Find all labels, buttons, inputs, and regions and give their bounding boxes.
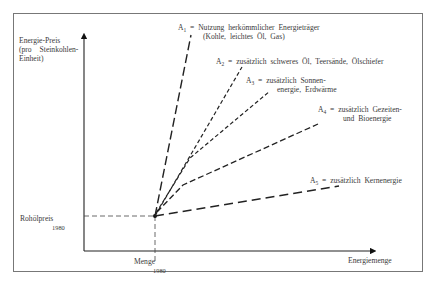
annotation-line: zusätzlich Kernenergie bbox=[330, 176, 402, 185]
curve-sub: 5 bbox=[315, 180, 318, 186]
curve-a1 bbox=[155, 35, 191, 216]
reference-quantity-year: 1980 bbox=[153, 266, 166, 275]
reference-price-label: Rohölpreis bbox=[20, 214, 53, 223]
annotation-line: zusätzlich Gezeiten- bbox=[338, 105, 402, 114]
annotation-line: zusätzlich schweres Öl, Teersände, Ölsch… bbox=[236, 57, 383, 66]
x-axis-label: Energiemenge bbox=[348, 256, 392, 265]
curve-a5 bbox=[155, 186, 339, 216]
reference-price-year: 1980 bbox=[52, 223, 65, 232]
annotation-a4-line2: und Bioenergie bbox=[343, 114, 391, 123]
curve-sub: 1 bbox=[183, 27, 186, 33]
y-axis-label-line: (pro Steinkohlen- bbox=[19, 45, 78, 54]
annotation-line: Nutzung herkömmlicher Energieträger bbox=[198, 23, 320, 32]
reference-quantity-label: Menge bbox=[134, 257, 155, 266]
equals: = bbox=[258, 76, 262, 85]
equals: = bbox=[190, 23, 194, 32]
annotation-line: zusätzlich Sonnen- bbox=[266, 76, 326, 85]
y-axis-label-line: Einheit) bbox=[19, 54, 78, 63]
curve-sub: 3 bbox=[251, 80, 254, 86]
curve-sub: 4 bbox=[323, 109, 326, 115]
y-axis-label-line: Energie-Preis bbox=[19, 36, 78, 45]
equals: = bbox=[228, 57, 232, 66]
annotation-a2: A2 = zusätzlich schweres Öl, Teersände, … bbox=[216, 57, 383, 69]
y-axis-label: Energie-Preis (pro Steinkohlen- Einheit) bbox=[19, 36, 78, 63]
equals: = bbox=[322, 176, 326, 185]
annotation-a1-line2: (Kohle, leichtes Öl, Gas) bbox=[203, 32, 285, 41]
annotation-a5: A5 = zusätzlich Kernenergie bbox=[310, 176, 402, 188]
annotation-a3-line2: energie, Erdwärme bbox=[277, 85, 337, 94]
curve-sub: 2 bbox=[221, 61, 224, 67]
curve-a4 bbox=[157, 124, 318, 212]
equals: = bbox=[330, 105, 334, 114]
